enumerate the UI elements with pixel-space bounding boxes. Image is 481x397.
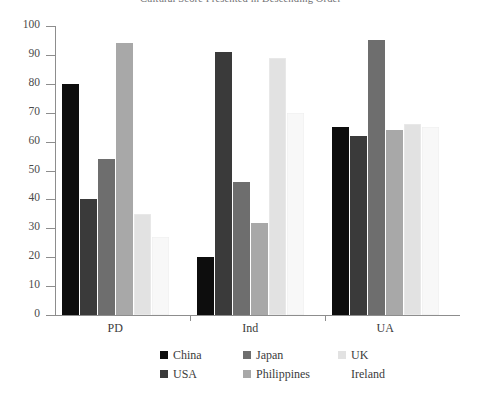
legend-label: Ireland (351, 367, 385, 382)
legend-swatch-icon (338, 351, 346, 359)
y-axis-label: 100 (0, 18, 40, 30)
y-axis-tick (46, 315, 55, 316)
y-axis-tick (46, 84, 55, 85)
y-axis-tick (46, 142, 55, 143)
y-axis-tick (46, 199, 55, 200)
legend-label: Philippines (256, 367, 310, 382)
legend-swatch-icon (338, 370, 346, 378)
legend-item-usa[interactable]: USA (160, 367, 197, 382)
legend-swatch-icon (160, 370, 168, 378)
bar (134, 214, 151, 315)
y-axis-label: 50 (0, 163, 40, 175)
legend-item-japan[interactable]: Japan (243, 348, 283, 363)
legend-swatch-icon (243, 370, 251, 378)
legend-item-china[interactable]: China (160, 348, 202, 363)
legend-label: UK (351, 348, 368, 363)
bar (368, 40, 385, 315)
legend-item-uk[interactable]: UK (338, 348, 368, 363)
y-axis-label: 60 (0, 134, 40, 146)
bar (269, 58, 286, 315)
bar (251, 223, 268, 315)
bar-group (332, 26, 439, 315)
bar (233, 182, 250, 315)
bar (80, 199, 97, 315)
bar (332, 127, 349, 315)
bar (116, 43, 133, 315)
legend-swatch-icon (160, 351, 168, 359)
y-axis-label: 80 (0, 76, 40, 88)
bar (386, 130, 403, 315)
y-axis-tick (46, 171, 55, 172)
y-axis-tick (46, 113, 55, 114)
bar (62, 84, 79, 315)
y-axis-label: 0 (0, 307, 40, 319)
y-axis-tick (46, 286, 55, 287)
legend-item-philippines[interactable]: Philippines (243, 367, 310, 382)
y-axis-label: 70 (0, 105, 40, 117)
bar-group (197, 26, 304, 315)
y-axis-label: 30 (0, 220, 40, 232)
bar (215, 52, 232, 315)
legend-swatch-icon (243, 351, 251, 359)
y-axis-tick (46, 228, 55, 229)
x-axis-label: PD (75, 321, 155, 336)
legend-label: USA (173, 367, 197, 382)
y-axis-label: 10 (0, 278, 40, 290)
bar (98, 159, 115, 315)
legend-row: ChinaJapanUK (0, 348, 481, 367)
x-axis-tick (325, 315, 326, 321)
plot-area (55, 26, 460, 315)
y-axis-tick (46, 55, 55, 56)
legend-label: China (173, 348, 202, 363)
x-axis-label: UA (345, 321, 425, 336)
bar (350, 136, 367, 315)
chart-title: Cultural Score Presented in Descending O… (0, 0, 481, 4)
x-axis-label: Ind (210, 321, 290, 336)
legend-row: USAPhilippinesIreland (0, 367, 481, 386)
bar (152, 237, 169, 315)
chart-legend: ChinaJapanUKUSAPhilippinesIreland (0, 348, 481, 386)
y-axis-label: 90 (0, 47, 40, 59)
y-axis-label: 40 (0, 191, 40, 203)
legend-label: Japan (256, 348, 283, 363)
y-axis-label: 20 (0, 249, 40, 261)
bar-group (62, 26, 169, 315)
chart-root: Cultural Score Presented in Descending O… (0, 0, 481, 397)
y-axis-tick (46, 26, 55, 27)
x-axis-tick (190, 315, 191, 321)
bar (197, 257, 214, 315)
legend-item-ireland[interactable]: Ireland (338, 367, 385, 382)
x-axis-line (55, 315, 460, 316)
bar (404, 124, 421, 315)
bar (287, 113, 304, 315)
bar (422, 127, 439, 315)
y-axis-tick (46, 257, 55, 258)
